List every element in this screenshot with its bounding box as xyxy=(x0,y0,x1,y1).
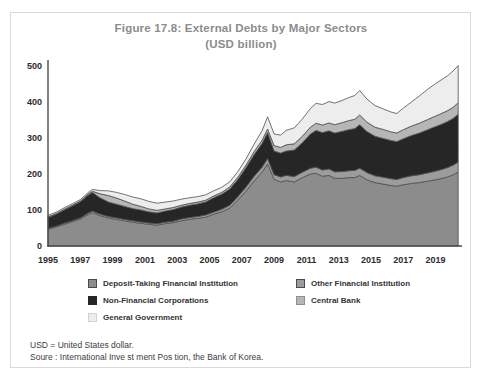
legend-item-general-government: General Government xyxy=(88,312,238,322)
legend-label: Central Bank xyxy=(311,296,360,305)
legend-swatch-icon xyxy=(88,296,97,305)
legend-item-central-bank: Central Bank xyxy=(296,295,410,305)
stacked-area-chart: 0100200300400500199519971999200120032005… xyxy=(0,0,482,272)
x-tick-label: 1999 xyxy=(103,255,123,265)
legend-label: Non-Financial Corporations xyxy=(103,296,208,305)
y-tick-label: 500 xyxy=(27,61,42,71)
x-tick-label: 2009 xyxy=(264,255,284,265)
y-tick-label: 300 xyxy=(27,133,42,143)
y-tick-label: 0 xyxy=(37,241,42,251)
x-tick-label: 2013 xyxy=(329,255,349,265)
legend-swatch-icon xyxy=(88,313,97,322)
footnote-usd: USD = United States dollar. xyxy=(30,339,134,351)
y-tick-label: 200 xyxy=(27,169,42,179)
x-tick-label: 2019 xyxy=(426,255,446,265)
y-tick-label: 400 xyxy=(27,97,42,107)
legend-column-right: Other Financial InstitutionCentral Bank xyxy=(296,278,410,305)
x-tick-label: 2015 xyxy=(361,255,381,265)
x-tick-label: 2007 xyxy=(232,255,252,265)
legend-swatch-icon xyxy=(88,279,97,288)
x-tick-label: 1995 xyxy=(38,255,58,265)
legend-item-non-financial-corporations: Non-Financial Corporations xyxy=(88,295,238,305)
legend-swatch-icon xyxy=(296,296,305,305)
legend-label: Other Financial Institution xyxy=(311,279,410,288)
legend-swatch-icon xyxy=(296,279,305,288)
x-tick-label: 2005 xyxy=(199,255,219,265)
footnote-source: Soure : International Inve st ment Pos t… xyxy=(30,351,263,363)
x-tick-label: 2011 xyxy=(297,255,317,265)
x-tick-label: 1997 xyxy=(70,255,90,265)
legend-item-deposit-taking-financial-institution: Deposit-Taking Financial Institution xyxy=(88,278,238,288)
figure-page: Figure 17.8: External Debts by Major Sec… xyxy=(0,0,482,376)
x-tick-label: 2017 xyxy=(393,255,413,265)
legend-item-other-financial-institution: Other Financial Institution xyxy=(296,278,410,288)
legend-label: Deposit-Taking Financial Institution xyxy=(103,279,238,288)
y-tick-label: 100 xyxy=(27,205,42,215)
legend-column-left: Deposit-Taking Financial InstitutionNon-… xyxy=(88,278,238,322)
legend-label: General Government xyxy=(103,313,182,322)
x-tick-label: 2001 xyxy=(135,255,155,265)
x-tick-label: 2003 xyxy=(167,255,187,265)
